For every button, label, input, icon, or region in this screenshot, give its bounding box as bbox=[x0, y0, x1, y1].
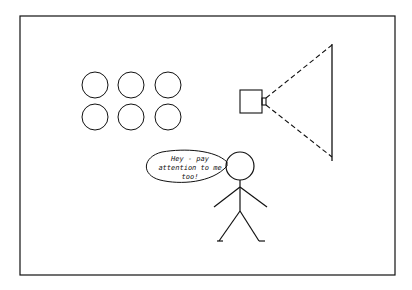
stick-figure bbox=[214, 152, 267, 241]
circle bbox=[82, 72, 108, 98]
speech-bubble: Hey - pay attention to me too! bbox=[146, 150, 227, 182]
circle bbox=[155, 104, 181, 130]
projector-lens bbox=[262, 98, 266, 105]
beam-upper bbox=[266, 45, 332, 98]
frame-border bbox=[20, 16, 395, 275]
circle-grid bbox=[82, 72, 181, 130]
bubble-line-3: too! bbox=[182, 173, 199, 181]
beam-lower bbox=[266, 105, 332, 157]
circle bbox=[155, 72, 181, 98]
figure-head bbox=[226, 152, 254, 180]
projector-body bbox=[240, 90, 262, 113]
figure-right-leg bbox=[240, 211, 259, 241]
bubble-line-2: attention to me bbox=[158, 164, 221, 172]
circle bbox=[82, 104, 108, 130]
figure-left-arm bbox=[214, 187, 240, 207]
circle bbox=[118, 104, 144, 130]
bubble-line-1: Hey - pay bbox=[170, 155, 210, 163]
diagram-canvas: Hey - pay attention to me too! bbox=[0, 0, 412, 290]
projector bbox=[240, 44, 332, 161]
circle bbox=[118, 72, 144, 98]
figure-right-arm bbox=[240, 187, 267, 207]
figure-left-leg bbox=[219, 211, 240, 241]
